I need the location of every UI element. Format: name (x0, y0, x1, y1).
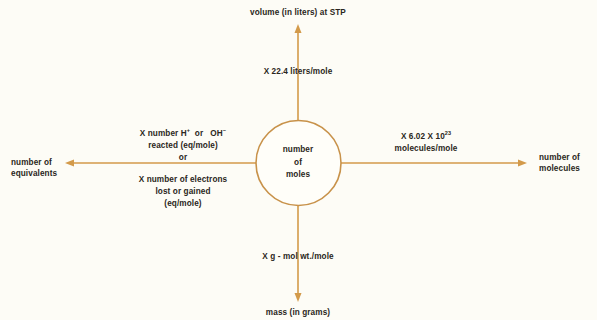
or-label: or (108, 152, 258, 164)
molecules-factor-exponent: 23 (445, 130, 451, 136)
acid-factor-prefix: X number H (140, 129, 187, 138)
center-line-1: number (268, 144, 328, 157)
redox-factor-line1: X number of electrons (108, 174, 258, 186)
redox-factor-line3: (eq/mole) (108, 198, 258, 210)
acid-factor-line2: reacted (eq/mole) (108, 140, 258, 152)
redox-factor-line2: lost or gained (108, 186, 258, 198)
center-line-2: of (268, 157, 328, 170)
mass-label: mass (in grams) (218, 307, 378, 319)
equivalents-label: number of equivalents (11, 157, 57, 179)
molecules-factor-label: X 6.02 X 1023 molecules/mole (366, 131, 486, 155)
equivalents-factor-acid-label: X number H+ or OH− reacted (eq/mole) or (108, 128, 258, 164)
equivalents-factor-redox-label: X number of electrons lost or gained (eq… (108, 174, 258, 210)
equivalents-label-line1: number of (11, 157, 57, 168)
center-line-3: moles (268, 169, 328, 182)
volume-factor-label: X 22.4 liters/mole (218, 66, 378, 78)
mass-factor-label: X g - mol wt./mole (218, 251, 378, 263)
volume-label: volume (in liters) at STP (198, 7, 398, 19)
molecules-label-line2: molecules (539, 163, 580, 174)
oh-minus-sup: − (223, 127, 226, 133)
arrowhead-down-icon (295, 293, 302, 302)
equivalents-label-line2: equivalents (11, 168, 57, 179)
arrowhead-left-icon (65, 160, 74, 167)
molecules-factor-line2: molecules/mole (366, 143, 486, 155)
molecules-label-line1: number of (539, 152, 580, 163)
arrowhead-right-icon (518, 160, 527, 167)
molecules-factor-prefix: X 6.02 X 10 (401, 132, 445, 141)
acid-factor-mid: or OH (190, 129, 223, 138)
center-label: number of moles (268, 144, 328, 182)
arrowhead-up-icon (295, 24, 302, 33)
molecules-label: number of molecules (539, 152, 580, 174)
